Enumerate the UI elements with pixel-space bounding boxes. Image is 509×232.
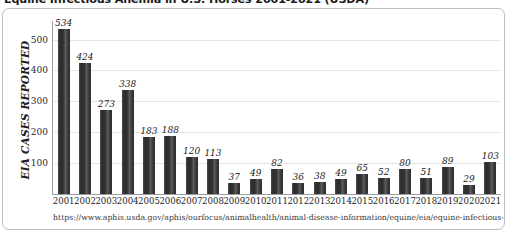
y-tick-label: 100 bbox=[31, 158, 48, 168]
bar[interactable] bbox=[250, 179, 262, 194]
bar-value-label: 36 bbox=[293, 172, 304, 182]
x-tick-label: 2005 bbox=[138, 196, 160, 206]
x-tick-label: 2002 bbox=[74, 196, 96, 206]
bar[interactable] bbox=[228, 183, 240, 194]
bar-slot: 188 bbox=[160, 21, 181, 194]
bar-slot: 338 bbox=[117, 21, 138, 194]
bar-value-label: 120 bbox=[183, 146, 200, 156]
x-tick-label: 2006 bbox=[159, 196, 181, 206]
bar-value-label: 51 bbox=[421, 167, 432, 177]
x-tick-label: 2004 bbox=[117, 196, 139, 206]
bar[interactable] bbox=[442, 167, 454, 194]
bar[interactable] bbox=[100, 110, 112, 194]
bar[interactable] bbox=[378, 178, 390, 194]
bar-value-label: 29 bbox=[463, 174, 474, 184]
bar[interactable] bbox=[356, 174, 368, 194]
bar-value-label: 65 bbox=[357, 163, 368, 173]
bar-series: 5344242733381831881201133749823638496552… bbox=[53, 21, 501, 194]
plot-area: 100200300400500 534424273338183188120113… bbox=[52, 21, 501, 195]
bar-slot: 424 bbox=[74, 21, 95, 194]
bar-slot: 273 bbox=[96, 21, 117, 194]
bar-slot: 51 bbox=[416, 21, 437, 194]
bar-slot: 534 bbox=[53, 21, 74, 194]
bar-slot: 52 bbox=[373, 21, 394, 194]
y-tick-label: 500 bbox=[31, 35, 48, 45]
x-tick-label: 2016 bbox=[373, 196, 395, 206]
x-tick-label: 2017 bbox=[394, 196, 416, 206]
bar-value-label: 38 bbox=[314, 171, 325, 181]
bar-value-label: 424 bbox=[76, 52, 93, 62]
bar[interactable] bbox=[164, 136, 176, 194]
x-tick-label: 2010 bbox=[245, 196, 267, 206]
bar[interactable] bbox=[58, 29, 70, 194]
x-tick-label: 2015 bbox=[351, 196, 373, 206]
x-tick-label: 2012 bbox=[287, 196, 309, 206]
x-tick-label: 2013 bbox=[309, 196, 331, 206]
bar[interactable] bbox=[463, 185, 475, 194]
bar-value-label: 103 bbox=[482, 151, 499, 161]
bar-value-label: 113 bbox=[204, 148, 221, 158]
bar[interactable] bbox=[186, 157, 198, 194]
bar-value-label: 273 bbox=[98, 99, 115, 109]
bar[interactable] bbox=[420, 178, 432, 194]
bar[interactable] bbox=[79, 63, 91, 194]
bar-slot: 82 bbox=[266, 21, 287, 194]
bar[interactable] bbox=[292, 183, 304, 194]
x-axis-ticks: 2001200220032004200520062007200820092010… bbox=[53, 196, 501, 209]
bar-slot: 49 bbox=[245, 21, 266, 194]
source-note: https://www.aphis.usda.gov/aphis/ourfocu… bbox=[53, 213, 505, 222]
bar-value-label: 82 bbox=[271, 158, 282, 168]
x-tick-label: 2007 bbox=[181, 196, 203, 206]
bar-slot: 80 bbox=[394, 21, 415, 194]
bar-slot: 89 bbox=[437, 21, 458, 194]
y-tick-label: 400 bbox=[31, 65, 48, 75]
page-title: Equine Infectious Anemia in U.S. Horses … bbox=[4, 0, 504, 7]
bar[interactable] bbox=[122, 90, 134, 194]
y-tick-label: 300 bbox=[31, 96, 48, 106]
bar[interactable] bbox=[399, 169, 411, 194]
y-tick-label: 200 bbox=[31, 127, 48, 137]
bar[interactable] bbox=[335, 179, 347, 194]
x-axis-line bbox=[52, 194, 501, 195]
bar-slot: 113 bbox=[202, 21, 223, 194]
bar-slot: 36 bbox=[288, 21, 309, 194]
x-tick-label: 2019 bbox=[437, 196, 459, 206]
bar-value-label: 49 bbox=[335, 168, 346, 178]
chart-card: EIA CASES REPORTED 100200300400500 53442… bbox=[2, 8, 505, 230]
bar-value-label: 338 bbox=[119, 79, 136, 89]
x-tick-label: 2011 bbox=[266, 196, 288, 206]
bar-slot: 29 bbox=[458, 21, 479, 194]
x-tick-label: 2014 bbox=[330, 196, 352, 206]
bar[interactable] bbox=[207, 159, 219, 194]
bar-value-label: 80 bbox=[399, 158, 410, 168]
bar-value-label: 37 bbox=[229, 172, 240, 182]
bar[interactable] bbox=[271, 169, 283, 194]
bar-slot: 38 bbox=[309, 21, 330, 194]
bar-slot: 103 bbox=[480, 21, 501, 194]
bar[interactable] bbox=[484, 162, 496, 194]
bar-value-label: 183 bbox=[140, 126, 157, 136]
bar[interactable] bbox=[143, 137, 155, 194]
bar-value-label: 49 bbox=[250, 168, 261, 178]
x-tick-label: 2020 bbox=[458, 196, 480, 206]
x-tick-label: 2008 bbox=[202, 196, 224, 206]
bar-slot: 183 bbox=[138, 21, 159, 194]
bar-slot: 65 bbox=[352, 21, 373, 194]
bar-value-label: 534 bbox=[55, 18, 72, 28]
bar-value-label: 52 bbox=[378, 167, 389, 177]
x-tick-label: 2018 bbox=[415, 196, 437, 206]
y-axis-title: EIA CASES REPORTED bbox=[19, 22, 31, 198]
x-tick-label: 2001 bbox=[53, 196, 75, 206]
x-tick-label: 2009 bbox=[223, 196, 245, 206]
bar[interactable] bbox=[314, 182, 326, 194]
x-tick-label: 2021 bbox=[479, 196, 501, 206]
bar-slot: 49 bbox=[330, 21, 351, 194]
bar-value-label: 89 bbox=[442, 156, 453, 166]
bar-slot: 120 bbox=[181, 21, 202, 194]
bar-value-label: 188 bbox=[162, 125, 179, 135]
bar-slot: 37 bbox=[224, 21, 245, 194]
x-tick-label: 2003 bbox=[95, 196, 117, 206]
